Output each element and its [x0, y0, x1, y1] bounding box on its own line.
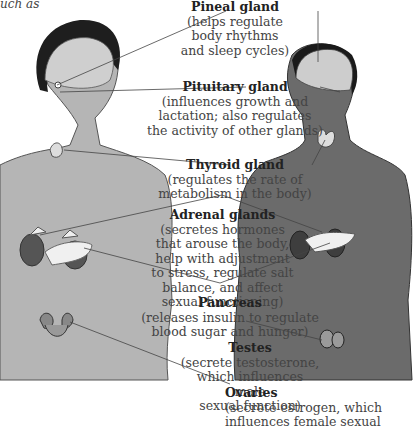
label-pancreas: Pancreas (releases insulin to regulate b… — [140, 296, 320, 340]
caption-fragment: uch as — [0, 0, 39, 11]
label-ovaries: Ovaries (secrete estrogen, which influen… — [225, 386, 395, 427]
label-thyroid: Thyroid gland (regulates the rate of met… — [150, 158, 320, 202]
label-pineal: Pineal gland (helps regulate body rhythm… — [160, 0, 310, 58]
label-pituitary: Pituitary gland (influences growth and l… — [145, 80, 325, 138]
